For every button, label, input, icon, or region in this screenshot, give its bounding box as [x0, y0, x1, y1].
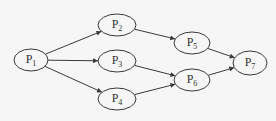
nodes-layer — [14, 14, 267, 110]
node-label-subscript: 1 — [32, 59, 36, 68]
node-label-p6: P6 — [187, 73, 198, 88]
node-label-p4: P4 — [112, 92, 123, 107]
node-label-subscript: 5 — [193, 42, 197, 51]
edge-p2-to-p5 — [135, 29, 176, 39]
edge-p6-to-p7 — [208, 68, 234, 76]
edge-p5-to-p7 — [208, 48, 235, 57]
edge-p1-to-p3 — [48, 60, 98, 61]
node-label-base: P — [187, 35, 194, 49]
node-label-base: P — [112, 17, 119, 31]
graph-canvas — [0, 0, 276, 121]
node-label-p2: P2 — [112, 18, 123, 33]
node-label-base: P — [245, 55, 252, 69]
node-label-p7: P7 — [245, 56, 256, 71]
node-label-base: P — [112, 53, 119, 67]
edge-p4-to-p6 — [134, 84, 175, 94]
node-label-base: P — [112, 91, 119, 105]
node-label-subscript: 3 — [118, 60, 122, 69]
node-label-subscript: 2 — [118, 24, 122, 33]
node-label-base: P — [26, 52, 33, 66]
precedence-graph: P1P2P3P4P5P6P7 — [0, 0, 276, 121]
node-label-p5: P5 — [187, 36, 198, 51]
node-label-p3: P3 — [112, 54, 123, 69]
node-label-p1: P1 — [26, 53, 37, 68]
edge-p3-to-p6 — [134, 65, 175, 75]
node-label-subscript: 6 — [193, 79, 197, 88]
edge-p1-to-p4 — [45, 66, 102, 92]
node-label-subscript: 7 — [251, 62, 255, 71]
edge-p1-to-p2 — [45, 31, 101, 54]
node-label-subscript: 4 — [118, 98, 122, 107]
node-label-base: P — [187, 72, 194, 86]
